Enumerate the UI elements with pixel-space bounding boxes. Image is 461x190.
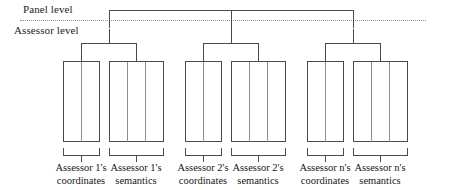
box-a1-semantics <box>110 62 164 142</box>
underbrace-a1-coordinates <box>64 148 100 156</box>
assessor-connector-2 <box>204 44 259 62</box>
assessor-connector-3 <box>326 44 381 62</box>
caption-line1: Assessor 1's <box>110 162 161 173</box>
box-a2-semantics <box>232 62 286 142</box>
assessor-connector-1 <box>82 44 137 62</box>
underbrace-a2-semantics <box>232 148 286 156</box>
tree-links <box>82 11 381 62</box>
caption-line1: Assessor n's <box>354 162 405 173</box>
leaf-boxes <box>64 62 408 142</box>
box-an-semantics <box>354 62 408 142</box>
caption-an-semantics: Assessor n'ssemantics <box>335 162 425 187</box>
caption-line1: Assessor 2's <box>232 162 283 173</box>
underbraces <box>64 148 408 162</box>
underbrace-a1-semantics <box>110 148 164 156</box>
underbrace-an-semantics <box>354 148 408 156</box>
caption-line2: semantics <box>335 175 425 188</box>
underbrace-an-coordinates <box>308 148 344 156</box>
underbrace-a2-coordinates <box>186 148 222 156</box>
diagram-canvas: Panel level Assessor level Assessor 1'sc… <box>0 0 461 190</box>
